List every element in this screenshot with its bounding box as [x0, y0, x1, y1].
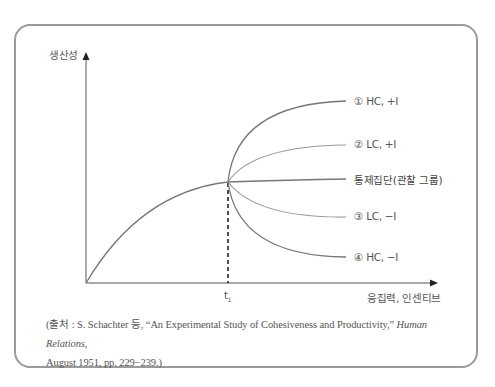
t1-tick-label: t1: [224, 290, 231, 303]
curve-hc-plus-i: [228, 101, 346, 182]
x-axis-label: 응집력, 인센티브: [367, 290, 441, 305]
curve-control-group: [228, 179, 346, 182]
label-lc-minus-i: ③ LC, −I: [354, 210, 396, 222]
curve-hc-minus-i: [228, 182, 346, 257]
label-hc-minus-i: ④ HC, −I: [354, 251, 398, 263]
label-lc-plus-i: ② LC, +I: [354, 138, 396, 150]
curve-pre-t1: [86, 182, 228, 283]
x-axis-arrow-icon: [430, 280, 438, 287]
curve-lc-plus-i: [228, 145, 346, 182]
y-axis-label: 생산성: [49, 47, 78, 62]
label-hc-plus-i: ① HC, +I: [354, 95, 398, 107]
source-caption: (출처 : S. Schachter 등, “An Experimental S…: [46, 315, 466, 372]
y-axis-arrow-icon: [83, 52, 90, 60]
curve-lc-minus-i: [228, 182, 346, 217]
label-control-group: 통제집단(관찰 그룹): [354, 172, 442, 187]
